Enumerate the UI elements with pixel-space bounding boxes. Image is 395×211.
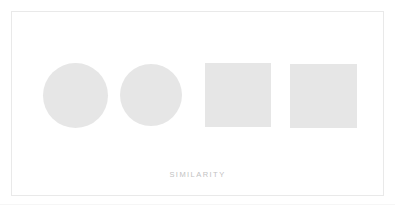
card-caption: SIMILARITY <box>12 170 383 179</box>
similarity-card: SIMILARITY <box>11 11 384 196</box>
shape-square-2 <box>290 64 357 128</box>
shape-circle-2 <box>120 64 182 126</box>
baseline-divider <box>0 204 395 205</box>
shape-circle-1 <box>43 63 108 128</box>
shape-square-1 <box>205 63 271 127</box>
shape-row <box>12 12 383 195</box>
